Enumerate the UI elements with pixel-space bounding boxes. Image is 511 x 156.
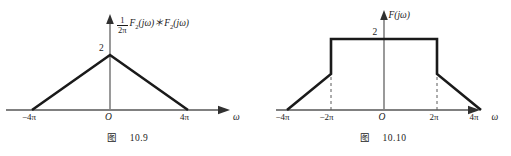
xtick-minus-4pi-fig1: −4π — [22, 113, 36, 122]
y-axis-arrowhead — [380, 10, 388, 20]
fraction-one-over-two-pi: 1 2π — [117, 16, 128, 34]
origin-label-fig2: O — [379, 113, 386, 123]
x-axis-variable-fig1: ω — [233, 113, 240, 123]
peak-value-label-fig1: 2 — [99, 44, 104, 54]
x-axis-variable-fig2: ω — [492, 113, 499, 123]
xtick-2pi-fig2: 2π — [430, 113, 439, 122]
xtick-minus-2pi-fig2: −2π — [320, 113, 334, 122]
expr-left-argument: (jω) — [139, 18, 155, 28]
caption-prefix-fig2: 图 — [360, 133, 371, 143]
figure-pair: 1 2π F2(jω)＊F2(jω) 2 −4π O 4π ω 图10.9 — [0, 0, 511, 156]
xtick-4pi-fig1: 4π — [180, 113, 189, 122]
trapezoidal-spectrum-plot — [256, 0, 511, 130]
figure-10-9: 1 2π F2(jω)＊F2(jω) 2 −4π O 4π ω 图10.9 — [0, 0, 256, 156]
caption-prefix-fig1: 图 — [107, 133, 118, 143]
xtick-4pi-fig2: 4π — [470, 113, 479, 122]
figure-10-10: F(jω) 2 −4π −2π O 2π 4π ω 图10.10 — [256, 0, 511, 156]
caption-number-fig2: 10.10 — [383, 133, 407, 143]
fraction-denominator: 2π — [117, 25, 128, 35]
origin-label-fig1: O — [105, 113, 112, 123]
y-axis-arrowhead — [106, 14, 114, 24]
convolution-expression: F2(jω)＊F2(jω) — [130, 19, 190, 30]
xtick-minus-4pi-fig2: −4π — [276, 113, 290, 122]
convolution-operator: ＊ — [154, 18, 164, 28]
x-axis-arrowhead — [218, 106, 230, 114]
y-axis-label-fig1: 1 2π F2(jω)＊F2(jω) — [117, 16, 189, 34]
caption-number-fig1: 10.9 — [130, 133, 149, 143]
peak-value-label-fig2: 2 — [373, 28, 378, 38]
fraction-numerator: 1 — [119, 16, 125, 25]
figure-caption-10-9: 图10.9 — [0, 130, 256, 144]
figure-caption-10-10: 图10.10 — [256, 130, 511, 144]
expr-right-argument: (jω) — [173, 18, 189, 28]
y-axis-label-fig2: F(jω) — [389, 11, 410, 21]
